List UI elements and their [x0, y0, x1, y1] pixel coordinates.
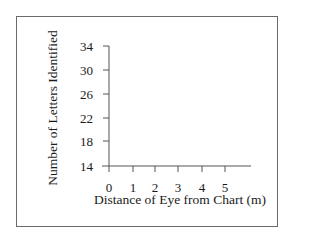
y-tick-label: 30 [80, 63, 93, 78]
y-tick-labels: 34 30 26 22 18 14 [80, 39, 94, 174]
y-ticks [103, 46, 109, 141]
y-tick-label: 18 [80, 134, 93, 149]
y-axis-title: Number of Letters Identified [45, 30, 61, 186]
y-tick-label: 34 [80, 39, 94, 54]
y-tick-label: 14 [80, 159, 94, 174]
x-axis-title: Distance of Eye from Chart (m) [94, 192, 266, 208]
y-tick-label: 22 [80, 111, 93, 126]
x-ticks [133, 166, 225, 172]
y-tick-label: 26 [80, 87, 94, 102]
